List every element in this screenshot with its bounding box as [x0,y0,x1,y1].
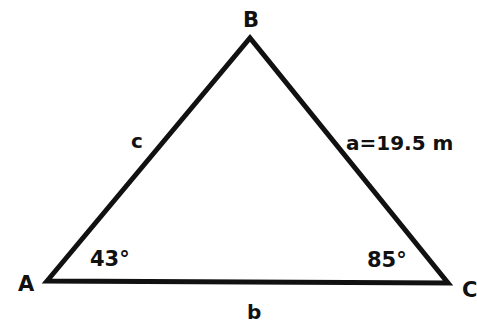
vertex-label-c: C [462,280,477,301]
vertex-label-b: B [243,10,259,31]
vertex-label-a: A [18,274,34,295]
angle-label-c: 85° [367,250,407,271]
angle-label-a: 43° [90,249,130,270]
side-label-a: a=19.5 m [346,133,453,153]
side-label-c: c [131,131,143,151]
side-label-b: b [247,302,261,322]
